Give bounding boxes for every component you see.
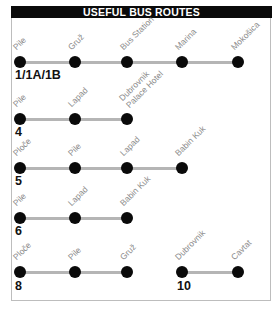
stop-dot: [176, 266, 188, 278]
stop-dot: [14, 56, 26, 68]
stop-dot: [176, 162, 188, 174]
stop-dot: [69, 56, 81, 68]
stop-dot: [69, 162, 81, 174]
route-number: 6: [15, 224, 22, 238]
stop-dot: [121, 162, 133, 174]
route-line: [182, 271, 238, 274]
route-number: 5: [15, 174, 22, 188]
stop-dot: [69, 113, 81, 125]
stop-dot: [121, 56, 133, 68]
route-number: 10: [177, 279, 191, 293]
stop-dot: [14, 113, 26, 125]
stop-dot: [232, 56, 244, 68]
stop-dot: [14, 266, 26, 278]
stop-dot: [14, 162, 26, 174]
stop-dot: [69, 212, 81, 224]
stop-dot: [69, 266, 81, 278]
stop-dot: [121, 212, 133, 224]
stop-dot: [14, 212, 26, 224]
route-line: [20, 167, 182, 170]
route-number: 8: [15, 279, 22, 293]
stop-dot: [121, 113, 133, 125]
route-number: 4: [15, 125, 22, 139]
panel-title: USEFUL BUS ROUTES: [11, 6, 272, 18]
stop-dot: [176, 56, 188, 68]
stop-dot: [121, 266, 133, 278]
stop-dot: [232, 266, 244, 278]
route-number: 1/1A/1B: [15, 68, 61, 82]
